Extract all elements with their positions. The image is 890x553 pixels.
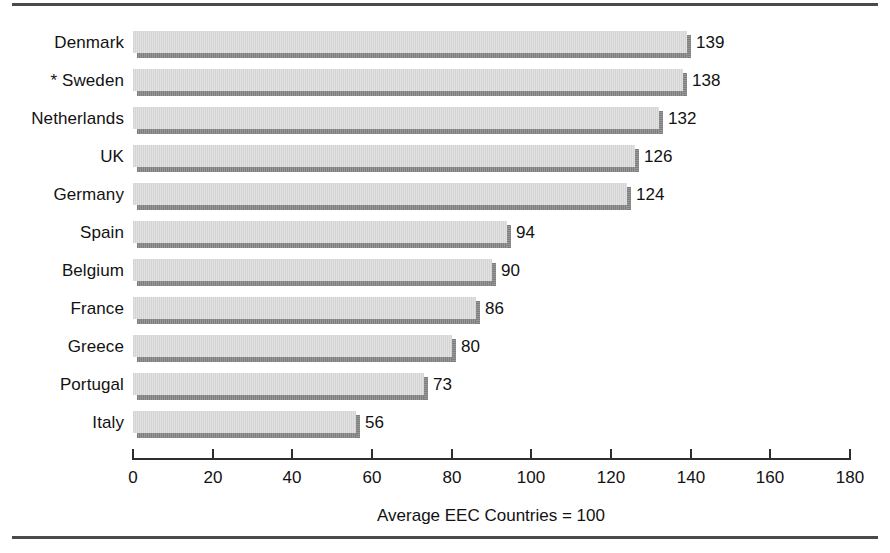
category-label: Belgium xyxy=(0,262,124,279)
x-axis-tick xyxy=(371,449,373,460)
bar-shadow-right xyxy=(659,111,663,134)
chart-figure: 139138132126124949086807356 Denmark* Swe… xyxy=(0,0,890,553)
bar-value-label: 139 xyxy=(696,33,724,52)
bar[interactable] xyxy=(133,183,627,205)
bar-shadow-right xyxy=(476,301,480,324)
bar-value-label: 94 xyxy=(516,223,535,242)
bar-value-label: 73 xyxy=(433,375,452,394)
category-label: * Sweden xyxy=(0,72,124,89)
x-axis-tick-label: 20 xyxy=(173,468,253,487)
bar[interactable] xyxy=(133,107,659,129)
bar[interactable] xyxy=(133,259,492,281)
category-label: Denmark xyxy=(0,34,124,51)
bar-shadow-right xyxy=(635,149,639,172)
bar-shadow-right xyxy=(687,35,691,58)
bar-shadow-right xyxy=(507,225,511,248)
bar-value-label: 56 xyxy=(365,413,384,432)
bar-value-label: 132 xyxy=(668,109,696,128)
x-axis-tick-label: 100 xyxy=(491,468,571,487)
x-axis-tick-label: 60 xyxy=(332,468,412,487)
x-axis-tick xyxy=(690,449,692,460)
plot-area: 139138132126124949086807356 Denmark* Swe… xyxy=(0,0,890,553)
bar-value-label: 90 xyxy=(501,261,520,280)
category-label: Spain xyxy=(0,224,124,241)
x-axis-tick xyxy=(291,449,293,460)
bar[interactable] xyxy=(133,297,476,319)
bar-shadow-right xyxy=(452,339,456,362)
x-axis-tick xyxy=(451,449,453,460)
bar-shadow-bottom xyxy=(137,53,691,58)
category-label: Italy xyxy=(0,414,124,431)
bar-value-label: 86 xyxy=(485,299,504,318)
category-label: France xyxy=(0,300,124,317)
category-label: Netherlands xyxy=(0,110,124,127)
bar-shadow-bottom xyxy=(137,167,639,172)
bar-shadow-right xyxy=(683,73,687,96)
bar-shadow-right xyxy=(627,187,631,210)
x-axis-line xyxy=(132,458,850,460)
x-axis-tick xyxy=(132,449,134,460)
bar-value-label: 126 xyxy=(644,147,672,166)
bar-shadow-bottom xyxy=(137,395,428,400)
bar[interactable] xyxy=(133,221,507,243)
bar-shadow-right xyxy=(424,377,428,400)
x-axis-tick-label: 80 xyxy=(412,468,492,487)
bar[interactable] xyxy=(133,411,356,433)
x-axis-tick-label: 160 xyxy=(730,468,810,487)
x-axis-tick xyxy=(212,449,214,460)
bar-value-label: 124 xyxy=(636,185,664,204)
bar-shadow-right xyxy=(356,415,360,438)
bar-shadow-bottom xyxy=(137,319,480,324)
bar-shadow-bottom xyxy=(137,243,511,248)
x-axis-tick xyxy=(849,449,851,460)
bar[interactable] xyxy=(133,31,687,53)
x-axis-caption: Average EEC Countries = 100 xyxy=(132,506,850,525)
category-label: UK xyxy=(0,148,124,165)
bar[interactable] xyxy=(133,69,683,91)
bar-shadow-bottom xyxy=(137,433,360,438)
bar-shadow-bottom xyxy=(137,205,631,210)
bar[interactable] xyxy=(133,373,424,395)
bar[interactable] xyxy=(133,145,635,167)
bar[interactable] xyxy=(133,335,452,357)
x-axis-tick-label: 120 xyxy=(571,468,651,487)
bar-shadow-bottom xyxy=(137,357,456,362)
x-axis-tick-label: 40 xyxy=(252,468,332,487)
bar-shadow-bottom xyxy=(137,129,663,134)
x-axis-tick-label: 140 xyxy=(651,468,731,487)
bar-shadow-right xyxy=(492,263,496,286)
category-label: Portugal xyxy=(0,376,124,393)
x-axis-tick-label: 0 xyxy=(93,468,173,487)
x-axis-tick xyxy=(610,449,612,460)
category-label: Greece xyxy=(0,338,124,355)
x-axis-tick-label: 180 xyxy=(810,468,890,487)
x-axis-tick xyxy=(769,449,771,460)
x-axis-tick xyxy=(530,449,532,460)
category-label: Germany xyxy=(0,186,124,203)
bar-value-label: 138 xyxy=(692,71,720,90)
bar-value-label: 80 xyxy=(461,337,480,356)
bar-shadow-bottom xyxy=(137,281,496,286)
bar-shadow-bottom xyxy=(137,91,687,96)
